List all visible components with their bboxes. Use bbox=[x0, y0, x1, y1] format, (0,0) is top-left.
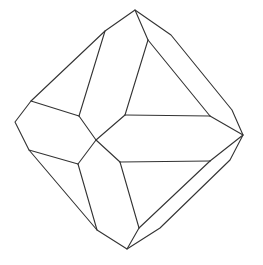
face-edge bbox=[96, 140, 120, 162]
face-edge bbox=[148, 40, 210, 116]
face-edge bbox=[125, 40, 148, 115]
face-edge bbox=[31, 101, 79, 116]
face-edge bbox=[78, 140, 96, 164]
face-edge bbox=[120, 161, 210, 162]
face-edge bbox=[96, 115, 125, 140]
face-edge bbox=[127, 228, 139, 249]
crystal-outline bbox=[15, 10, 243, 249]
crystal-diagram bbox=[0, 0, 263, 265]
face-edge bbox=[79, 116, 96, 140]
face-edge bbox=[210, 116, 243, 135]
face-edge bbox=[29, 150, 78, 164]
face-edge bbox=[125, 115, 210, 116]
face-edge bbox=[139, 161, 210, 228]
face-edge bbox=[78, 164, 97, 230]
face-edge bbox=[210, 135, 243, 161]
crystal-face-edges bbox=[29, 10, 243, 249]
face-edge bbox=[120, 162, 139, 228]
